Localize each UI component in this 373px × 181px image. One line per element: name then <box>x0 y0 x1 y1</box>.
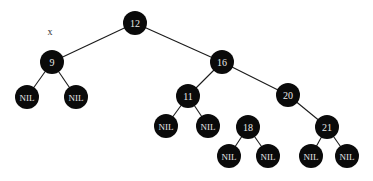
tree-node-18: 18 <box>236 115 260 139</box>
node-label: NIL <box>222 152 237 162</box>
node-label: 16 <box>217 57 227 68</box>
tree-node-9: 9 <box>40 50 64 74</box>
tree-node-12: 12 <box>123 11 147 35</box>
tree-node-11: 11 <box>176 84 200 108</box>
node-label: NIL <box>201 122 216 132</box>
pointer-x-label: x <box>48 26 53 37</box>
nil-18L: NIL <box>217 144 241 168</box>
node-label: NIL <box>69 93 84 103</box>
tree-node-21: 21 <box>315 115 339 139</box>
node-label: 18 <box>243 122 253 133</box>
node-label: 9 <box>50 57 55 68</box>
nil-9R: NIL <box>64 85 88 109</box>
tree-node-16: 16 <box>210 50 234 74</box>
node-label: NIL <box>340 152 355 162</box>
node-label: 21 <box>322 122 332 133</box>
tree-node-20: 20 <box>276 83 300 107</box>
nil-21R: NIL <box>335 144 359 168</box>
node-label: 20 <box>283 90 293 101</box>
edge-12-16 <box>135 23 222 62</box>
nil-21L: NIL <box>299 144 323 168</box>
edge-12-9 <box>52 23 135 62</box>
node-label: NIL <box>304 152 319 162</box>
node-label: NIL <box>20 93 35 103</box>
nil-9L: NIL <box>15 85 39 109</box>
nil-18R: NIL <box>256 144 280 168</box>
node-label: NIL <box>261 152 276 162</box>
node-label: 12 <box>130 18 140 29</box>
tree-diagram: 1291611201821NILNILNILNILNILNILNILNIL x <box>0 0 373 181</box>
node-label: 11 <box>183 91 193 102</box>
nil-11R: NIL <box>196 114 220 138</box>
nodes: 1291611201821NILNILNILNILNILNILNILNIL <box>15 11 359 168</box>
nil-11L: NIL <box>154 114 178 138</box>
node-label: NIL <box>159 122 174 132</box>
